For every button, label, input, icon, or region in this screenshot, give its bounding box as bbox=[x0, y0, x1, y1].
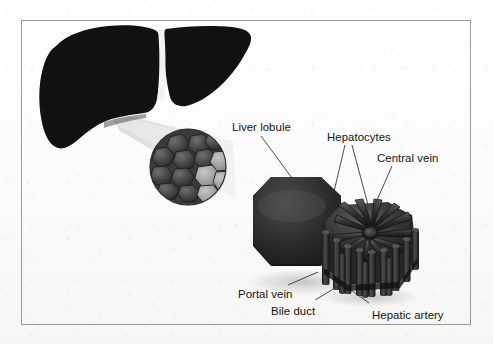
label-portal-vein: Portal vein bbox=[238, 288, 292, 301]
label-bile-duct: Bile duct bbox=[271, 305, 315, 318]
label-liver-lobule: Liver lobule bbox=[232, 121, 291, 134]
leader-hepatocytes-a bbox=[332, 145, 345, 200]
central-vein-hub bbox=[362, 226, 379, 240]
label-central-vein: Central vein bbox=[377, 152, 438, 165]
label-hepatic-artery: Hepatic artery bbox=[372, 309, 444, 322]
leader-hepatocytes-b bbox=[352, 145, 368, 205]
hepatic-lobule-detail bbox=[315, 199, 425, 308]
leader-central-vein bbox=[374, 166, 392, 207]
label-hepatocytes: Hepatocytes bbox=[327, 131, 391, 144]
liver-lobule-figure: Liver lobule Hepatocytes Central vein Po… bbox=[0, 0, 493, 344]
leader-liver-lobule bbox=[261, 136, 292, 178]
